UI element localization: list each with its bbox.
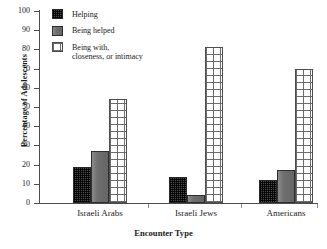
bar xyxy=(169,177,187,203)
y-tick-label: 20 xyxy=(0,161,30,169)
bar xyxy=(187,195,205,203)
y-tick-label: 50 xyxy=(0,103,30,111)
x-axis-line xyxy=(39,203,318,204)
bar xyxy=(295,69,313,203)
legend-label-being-with-line1: Being with, xyxy=(72,43,109,52)
y-tick-label: 40 xyxy=(0,122,30,130)
y-tick-label: 60 xyxy=(0,84,30,92)
legend-item-helping: Helping xyxy=(52,9,143,19)
y-tick-label: 80 xyxy=(0,45,30,53)
legend-label-being-with-line2: closeness, or intimacy xyxy=(72,52,143,61)
legend-label-helping: Helping xyxy=(72,9,98,19)
y-tick-label: 100 xyxy=(0,7,30,15)
legend: Helping Being helped Being with, closene… xyxy=(52,9,143,67)
y-tick xyxy=(34,203,39,204)
legend-swatch-helping xyxy=(52,9,63,19)
y-tick-label: 70 xyxy=(0,65,30,73)
legend-item-being-helped: Being helped xyxy=(52,26,143,36)
y-tick-label: 30 xyxy=(0,141,30,149)
y-tick-label: 0 xyxy=(0,199,30,207)
legend-label-being-with: Being with, closeness, or intimacy xyxy=(72,42,143,61)
bar xyxy=(109,99,127,203)
x-category-label: Israeli Jews xyxy=(146,208,246,219)
y-tick-label: 90 xyxy=(0,26,30,34)
bar xyxy=(73,167,91,203)
x-axis-title: Encounter Type xyxy=(0,228,327,238)
x-category-label: Americans xyxy=(236,208,327,219)
x-category-label: Israeli Arabs xyxy=(50,208,150,219)
legend-swatch-being-with xyxy=(52,42,63,52)
bar xyxy=(277,170,295,203)
bar-chart: Percentage of Adolescents 01020304050607… xyxy=(0,0,327,249)
bar xyxy=(259,180,277,203)
y-tick-label: 10 xyxy=(0,180,30,188)
legend-item-being-with: Being with, closeness, or intimacy xyxy=(52,42,143,61)
legend-label-being-helped: Being helped xyxy=(72,26,114,36)
bar xyxy=(205,47,223,203)
bar xyxy=(91,151,109,203)
legend-swatch-being-helped xyxy=(52,26,63,36)
